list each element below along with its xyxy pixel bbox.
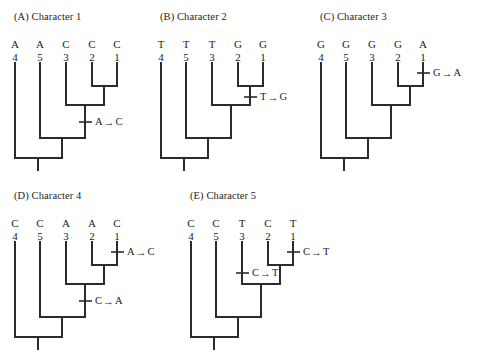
panel-a-cladogram <box>14 61 144 171</box>
tip-label-c-5: A 1 <box>416 38 430 63</box>
tip-label-c-1: G 4 <box>314 38 328 63</box>
tip-label-e-1: C 4 <box>184 217 198 242</box>
tip-state: G <box>339 38 353 51</box>
tip-state: C <box>8 217 22 230</box>
tip-state: T <box>179 38 193 51</box>
panel-a-character-1: (A) Character 1 A 4 A 5 C 3 C 2 C 1 <box>14 11 81 22</box>
tip-state: C <box>33 217 47 230</box>
panel-c-title: (C) Character 3 <box>320 11 387 22</box>
tip-label-b-1: T 4 <box>154 38 168 63</box>
change-from-state: A <box>127 246 135 257</box>
change-arrow-icon: → <box>441 68 454 79</box>
change-arrow-icon: → <box>259 268 272 279</box>
change-from-state: A <box>95 116 103 127</box>
panel-e-cladogram <box>190 240 320 350</box>
change-from-state: G <box>433 67 441 78</box>
tip-label-b-2: T 5 <box>179 38 193 63</box>
change-to-state: A <box>454 67 462 78</box>
panel-e-character-5: (E) Character 5 C 4 C 5 T 3 C 2 T 1 <box>190 190 256 201</box>
tip-state: C <box>85 38 99 51</box>
tip-label-d-3: A 3 <box>59 217 73 242</box>
tip-state: T <box>235 217 249 230</box>
tip-state: A <box>33 38 47 51</box>
change-arrow-icon: → <box>310 247 323 258</box>
tip-label-d-2: C 5 <box>33 217 47 242</box>
change-to-state: T <box>272 267 278 278</box>
tip-label-d-5: C 1 <box>110 217 124 242</box>
change-arrow-icon: → <box>102 296 115 307</box>
panel-b-title: (B) Character 2 <box>160 11 227 22</box>
panel-e-title: (E) Character 5 <box>190 190 256 201</box>
panel-e-change-annotation-1: C→T <box>303 246 329 257</box>
tip-label-a-2: A 5 <box>33 38 47 63</box>
panel-d-cladogram <box>14 240 144 350</box>
panel-a-title: (A) Character 1 <box>14 11 81 22</box>
tip-state: A <box>416 38 430 51</box>
change-to-state: C <box>148 246 155 257</box>
panel-b-cladogram <box>160 61 290 171</box>
tip-label-d-4: A 2 <box>85 217 99 242</box>
panel-c-cladogram <box>320 61 450 171</box>
tip-state: T <box>154 38 168 51</box>
tip-label-d-1: C 4 <box>8 217 22 242</box>
panel-d-title: (D) Character 4 <box>14 190 81 201</box>
change-to-state: T <box>323 246 329 257</box>
tip-label-c-4: G 2 <box>391 38 405 63</box>
tip-state: G <box>365 38 379 51</box>
panel-e-change-annotation-2: C→T <box>252 267 278 278</box>
panel-a-change-annotation-1: A→C <box>95 116 123 127</box>
tip-state: A <box>8 38 22 51</box>
change-arrow-icon: → <box>103 117 116 128</box>
change-arrow-icon: → <box>266 92 279 103</box>
panel-d-change-annotation-1: A→C <box>127 246 155 257</box>
tip-label-a-1: A 4 <box>8 38 22 63</box>
panel-d-change-annotation-2: C→A <box>95 295 123 306</box>
tip-state: G <box>314 38 328 51</box>
tip-state: T <box>205 38 219 51</box>
tip-state: C <box>209 217 223 230</box>
tip-label-c-2: G 5 <box>339 38 353 63</box>
tip-label-b-5: G 1 <box>256 38 270 63</box>
tip-state: G <box>391 38 405 51</box>
tip-label-b-3: T 3 <box>205 38 219 63</box>
tip-state: C <box>110 38 124 51</box>
tip-label-c-3: G 3 <box>365 38 379 63</box>
change-arrow-icon: → <box>135 247 148 258</box>
tip-state: C <box>59 38 73 51</box>
tip-label-e-3: T 3 <box>235 217 249 242</box>
tip-label-e-4: C 2 <box>261 217 275 242</box>
change-to-state: A <box>115 295 123 306</box>
tip-state: G <box>231 38 245 51</box>
tip-state: A <box>85 217 99 230</box>
panel-b-change-annotation-1: T→G <box>260 91 287 102</box>
panel-b-character-2: (B) Character 2 T 4 T 5 T 3 G 2 G 1 <box>160 11 227 22</box>
change-to-state: G <box>279 91 287 102</box>
tip-label-b-4: G 2 <box>231 38 245 63</box>
panel-d-character-4: (D) Character 4 C 4 C 5 A 3 A 2 C 1 <box>14 190 81 201</box>
tip-label-e-5: T 1 <box>286 217 300 242</box>
change-from-state: C <box>252 267 259 278</box>
change-from-state: C <box>303 246 310 257</box>
tip-state: C <box>110 217 124 230</box>
tip-state: G <box>256 38 270 51</box>
panel-c-change-annotation-1: G→A <box>433 67 461 78</box>
tip-state: A <box>59 217 73 230</box>
change-to-state: C <box>116 116 123 127</box>
tip-label-a-4: C 2 <box>85 38 99 63</box>
tip-label-e-2: C 5 <box>209 217 223 242</box>
tip-state: T <box>286 217 300 230</box>
tip-state: C <box>184 217 198 230</box>
tip-label-a-3: C 3 <box>59 38 73 63</box>
panel-c-character-3: (C) Character 3 G 4 G 5 G 3 G 2 A 1 <box>320 11 387 22</box>
change-from-state: C <box>95 295 102 306</box>
tip-label-a-5: C 1 <box>110 38 124 63</box>
tip-state: C <box>261 217 275 230</box>
